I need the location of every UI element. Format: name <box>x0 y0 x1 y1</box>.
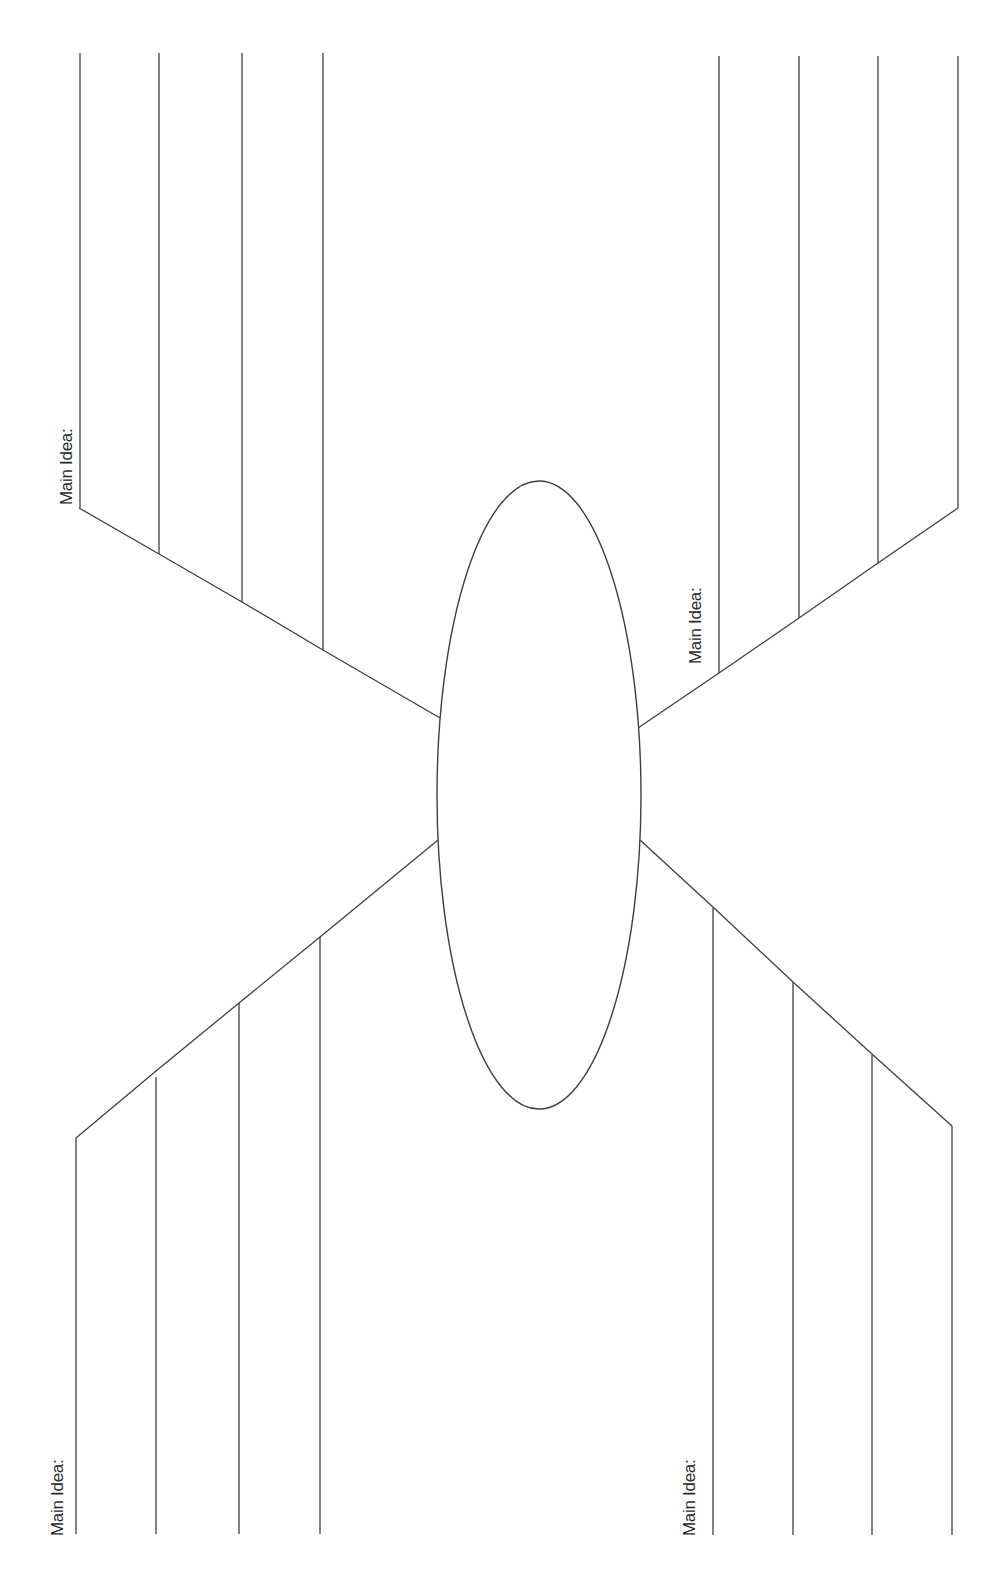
branch-top-left <box>79 53 440 718</box>
center-topic-ellipse[interactable] <box>437 481 641 1109</box>
spider-map-diagram <box>0 0 1004 1585</box>
branch-connector-line <box>76 840 438 1138</box>
branch-bottom-right <box>640 840 952 1535</box>
branch-bottom-left <box>76 840 438 1534</box>
main-idea-label-top-right: Main Idea: <box>686 588 706 664</box>
main-idea-label-bottom-left: Main Idea: <box>48 1460 68 1536</box>
spider-map-worksheet: Main Idea: Main Idea: Main Idea: Main Id… <box>0 0 1004 1585</box>
main-idea-label-bottom-right: Main Idea: <box>680 1460 700 1536</box>
branch-connector-line <box>640 840 952 1126</box>
main-idea-label-top-left: Main Idea: <box>57 429 77 505</box>
branch-connector-line <box>79 508 440 718</box>
